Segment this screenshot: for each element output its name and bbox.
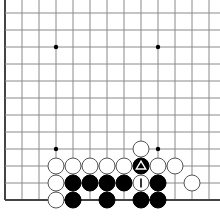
black-stone-disc [99,175,115,191]
white-stone [184,175,200,191]
black-stone [65,192,81,208]
white-stone-disc [48,192,64,208]
white-stone-disc [65,158,81,174]
white-stone-disc [167,158,183,174]
white-stone [133,175,149,191]
black-stone [133,158,149,174]
black-stone [99,175,115,191]
black-stone [99,192,115,208]
white-stone [48,158,64,174]
white-stone [82,158,98,174]
black-stone-disc [150,192,166,208]
go-board [0,0,220,218]
black-stone [116,175,132,191]
white-stone-disc [48,158,64,174]
white-stone-disc [116,158,132,174]
black-stone [133,192,149,208]
black-stone-disc [133,192,149,208]
white-stone [65,158,81,174]
star-point [156,45,160,49]
white-stone [150,158,166,174]
black-stone-disc [65,192,81,208]
black-stone [82,175,98,191]
black-stone-disc [150,175,166,191]
black-stone-disc [82,175,98,191]
white-stone [99,158,115,174]
white-stone [167,158,183,174]
star-point [54,147,58,151]
white-stone-disc [99,158,115,174]
white-stone-disc [48,175,64,191]
white-stone-disc [184,175,200,191]
black-stone [150,175,166,191]
white-stone [48,175,64,191]
white-stone [116,158,132,174]
star-point [156,147,160,151]
black-stone-disc [65,175,81,191]
black-stone [150,192,166,208]
white-stone [133,141,149,157]
white-stone-disc [82,158,98,174]
star-point [54,45,58,49]
black-stone-disc [99,192,115,208]
white-stone [48,192,64,208]
white-stone-disc [133,141,149,157]
white-stone-disc [150,158,166,174]
black-stone [65,175,81,191]
black-stone-disc [116,175,132,191]
